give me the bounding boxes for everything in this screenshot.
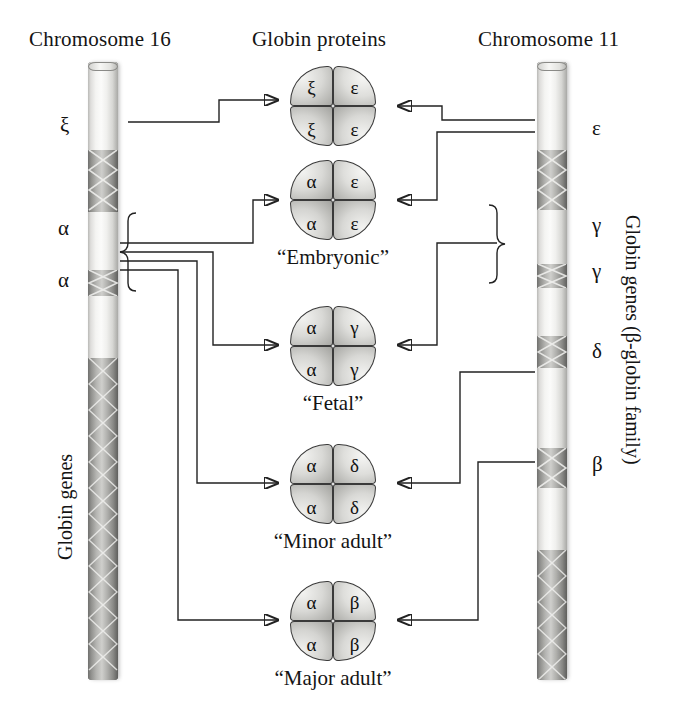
lobe-bottom-left: ξ xyxy=(290,106,333,146)
lobe-bottom-right: ε xyxy=(333,106,376,146)
protein-name-major-adult: “Major adult” xyxy=(248,666,418,691)
protein-tetramer-alpha2-epsilon2: α ε α ε xyxy=(290,160,376,240)
wire-alpha-to-major-adult xyxy=(120,270,278,620)
lobe-label: ε xyxy=(334,78,375,97)
lobe-top-right: ε xyxy=(333,66,376,106)
lobe-bottom-right: ε xyxy=(333,200,376,240)
protein-tetramer-alpha2-beta2: α β α β xyxy=(290,581,376,661)
wire-alpha-to-alpha2epsilon2 xyxy=(120,200,278,243)
wire-delta-to-minor-adult xyxy=(398,372,535,483)
wire-alpha-to-minor-adult xyxy=(120,261,278,483)
lobe-label: ε xyxy=(334,120,375,139)
wire-zeta-to-embryonic-tetramer xyxy=(128,100,278,122)
lobe-bottom-right: γ xyxy=(333,346,376,386)
lobe-label: ξ xyxy=(291,120,332,139)
lobe-label: α xyxy=(291,635,332,654)
lobe-bottom-left: α xyxy=(290,484,333,524)
lobe-label: β xyxy=(334,635,375,654)
lobe-top-left: α xyxy=(290,160,333,200)
lobe-label: α xyxy=(291,214,332,233)
lobe-top-left: α xyxy=(290,581,333,621)
lobe-label: α xyxy=(291,456,332,475)
lobe-label: α xyxy=(291,360,332,379)
lobe-label: γ xyxy=(334,360,375,379)
protein-tetramer-alpha2-delta2: α δ α δ xyxy=(290,444,376,524)
wire-beta-to-major-adult xyxy=(398,462,535,620)
lobe-label: β xyxy=(334,593,375,612)
lobe-top-left: α xyxy=(290,306,333,346)
lobe-top-left: ξ xyxy=(290,66,333,106)
lobe-label: δ xyxy=(334,456,375,475)
lobe-bottom-left: α xyxy=(290,200,333,240)
brace-gamma-genes xyxy=(489,205,505,283)
protein-name-embryonic: “Embryonic” xyxy=(258,245,408,270)
lobe-top-right: ε xyxy=(333,160,376,200)
wire-alpha-to-fetal xyxy=(120,252,278,345)
lobe-label: δ xyxy=(334,498,375,517)
lobe-label: α xyxy=(291,498,332,517)
lobe-label: ε xyxy=(334,214,375,233)
lobe-bottom-right: δ xyxy=(333,484,376,524)
lobe-label: ε xyxy=(334,172,375,191)
lobe-label: α xyxy=(291,593,332,612)
wire-epsilon-to-embryonic xyxy=(398,132,535,200)
protein-name-fetal: “Fetal” xyxy=(258,391,408,416)
protein-tetramer-alpha2-gamma2: α γ α γ xyxy=(290,306,376,386)
lobe-bottom-right: β xyxy=(333,621,376,661)
wire-epsilon-to-zeta2epsilon2 xyxy=(398,106,535,120)
lobe-label: α xyxy=(291,172,332,191)
protein-name-minor-adult: “Minor adult” xyxy=(248,529,418,554)
lobe-top-left: α xyxy=(290,444,333,484)
lobe-bottom-left: α xyxy=(290,346,333,386)
lobe-top-right: γ xyxy=(333,306,376,346)
lobe-label: γ xyxy=(334,318,375,337)
lobe-label: α xyxy=(291,318,332,337)
lobe-top-right: δ xyxy=(333,444,376,484)
globin-gene-expression-diagram: Chromosome 16 Globin proteins Chromosome… xyxy=(0,0,676,714)
lobe-top-right: β xyxy=(333,581,376,621)
lobe-bottom-left: α xyxy=(290,621,333,661)
protein-tetramer-zeta2-epsilon2: ξ ε ξ ε xyxy=(290,66,376,146)
wire-gamma-to-fetal xyxy=(398,243,497,345)
lobe-label: ξ xyxy=(291,78,332,97)
